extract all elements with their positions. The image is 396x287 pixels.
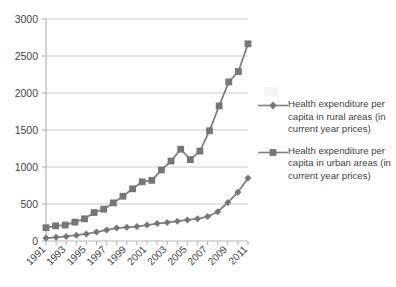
y-tick-label: 1500	[15, 124, 39, 136]
data-point-marker	[194, 215, 201, 222]
data-point-marker	[93, 229, 100, 236]
series-line	[46, 44, 248, 228]
data-point-marker	[103, 226, 110, 233]
data-point-marker	[62, 222, 69, 229]
data-point-marker	[43, 224, 50, 231]
data-point-marker	[133, 223, 140, 230]
data-point-marker	[158, 167, 165, 174]
data-point-marker	[100, 206, 107, 213]
data-point-marker	[123, 224, 130, 231]
data-point-marker	[197, 148, 204, 155]
data-point-marker	[225, 79, 232, 86]
data-point-marker	[91, 209, 98, 216]
data-point-marker	[81, 215, 88, 222]
data-point-marker	[144, 222, 151, 229]
x-tick-label: 2011	[226, 243, 249, 266]
data-point-marker	[245, 40, 252, 47]
square-marker-icon	[258, 146, 288, 159]
diamond-marker-icon	[258, 99, 288, 112]
x-tick-label: 2009	[206, 243, 230, 267]
y-axis-tick-labels: 050010001500200025003000	[15, 13, 39, 247]
x-tick-label: 2001	[125, 243, 149, 267]
x-tick-label: 1997	[85, 243, 109, 267]
data-point-marker	[139, 178, 146, 185]
data-point-marker	[204, 213, 211, 220]
x-tick-label: 1991	[24, 243, 48, 267]
data-point-marker	[184, 216, 191, 223]
legend-entry-rural[interactable]: Health expenditure per capita in rural a…	[258, 98, 396, 136]
x-axis-ticks	[46, 241, 248, 245]
legend-entry-urban[interactable]: Health expenditure per capita in urban a…	[258, 145, 396, 183]
chart-legend: Health expenditure per capita in rural a…	[258, 98, 396, 192]
data-point-marker	[235, 68, 242, 75]
legend-label-urban: Health expenditure per capita in urban a…	[288, 145, 392, 183]
legend-artifact	[264, 87, 278, 96]
data-point-marker	[71, 219, 78, 226]
data-point-marker	[177, 146, 184, 153]
data-point-marker	[206, 127, 213, 134]
data-point-marker	[120, 193, 127, 200]
chart-figure: 050010001500200025003000 199119931995199…	[0, 0, 396, 287]
data-point-marker	[113, 225, 120, 232]
x-tick-label: 2005	[165, 243, 189, 267]
data-point-marker	[73, 232, 80, 239]
data-point-marker	[174, 218, 181, 225]
y-tick-label: 2000	[15, 87, 39, 99]
series-rural	[43, 175, 252, 242]
x-tick-label: 2003	[145, 243, 169, 267]
x-tick-label: 2007	[186, 243, 210, 267]
x-tick-label: 1999	[105, 243, 129, 267]
x-tick-label: 1995	[64, 243, 88, 267]
data-point-marker	[129, 185, 136, 192]
legend-label-rural: Health expenditure per capita in rural a…	[288, 98, 392, 136]
data-point-marker	[110, 199, 117, 206]
plot-svg: 050010001500200025003000 199119931995199…	[0, 0, 258, 287]
y-tick-label: 3000	[15, 13, 39, 25]
plot-area: 050010001500200025003000 199119931995199…	[0, 0, 258, 287]
y-tick-label: 2500	[15, 50, 39, 62]
data-point-marker	[53, 234, 60, 241]
y-tick-label: 500	[20, 198, 38, 210]
y-tick-label: 1000	[15, 161, 39, 173]
series-line	[46, 178, 248, 238]
data-point-marker	[187, 156, 194, 163]
series-urban	[43, 40, 252, 231]
x-tick-label: 1993	[44, 243, 68, 267]
data-point-marker	[52, 222, 59, 229]
data-point-marker	[216, 103, 223, 110]
data-point-marker	[148, 177, 155, 184]
data-point-marker	[164, 219, 171, 226]
data-point-marker	[154, 220, 161, 227]
data-point-marker	[63, 233, 70, 240]
data-point-marker	[168, 158, 175, 165]
x-axis-tick-labels: 1991199319951997199920012003200520072009…	[24, 243, 250, 267]
data-point-marker	[83, 230, 90, 237]
